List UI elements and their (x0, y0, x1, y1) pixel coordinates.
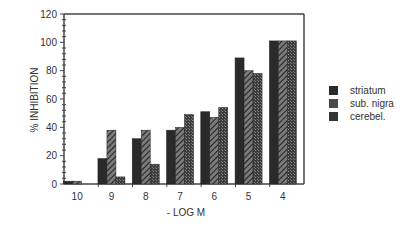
bar-sub-nigra (210, 117, 219, 184)
bar-cerebel (287, 41, 296, 184)
bar-striatum (98, 159, 107, 185)
y-tick-label: 80 (46, 65, 58, 76)
legend: striatum sub. nigra cerebel. (329, 84, 394, 123)
y-tick-label: 60 (46, 94, 58, 105)
y-axis-label: % INHIBITION (29, 67, 40, 132)
bar-striatum (269, 41, 278, 184)
y-tick-label: 0 (51, 179, 57, 190)
legend-swatch-cerebel (329, 112, 338, 121)
bar-striatum (201, 112, 210, 184)
bar-sub-nigra (244, 71, 253, 184)
bar-cerebel (219, 108, 228, 185)
bar-cerebel (150, 164, 159, 184)
legend-item-sub-nigra: sub. nigra (329, 97, 394, 110)
legend-swatch-striatum (329, 86, 338, 95)
bar-sub-nigra (107, 130, 116, 184)
bar-cerebel (185, 115, 194, 184)
bar-sub-nigra (176, 127, 185, 184)
bar-striatum (167, 130, 176, 184)
legend-item-cerebel: cerebel. (329, 110, 394, 123)
legend-item-striatum: striatum (329, 84, 394, 97)
bar-striatum (235, 58, 244, 184)
x-tick-label: 4 (280, 191, 286, 202)
y-tick-label: 40 (46, 122, 58, 133)
legend-label: striatum (350, 85, 386, 96)
legend-label: sub. nigra (350, 98, 394, 109)
y-tick-label: 20 (46, 150, 58, 161)
y-tick-label: 120 (40, 9, 57, 20)
y-tick-label: 100 (40, 37, 57, 48)
x-tick-label: 8 (143, 191, 149, 202)
x-tick-label: 10 (72, 191, 84, 202)
bar-striatum (64, 181, 73, 184)
x-tick-label: 7 (177, 191, 183, 202)
bars (64, 41, 297, 184)
bar-sub-nigra (73, 181, 82, 184)
x-tick-label: 5 (246, 191, 252, 202)
legend-swatch-sub-nigra (329, 99, 338, 108)
bar-cerebel (253, 74, 262, 185)
x-tick-label: 6 (212, 191, 218, 202)
x-tick-label: 9 (109, 191, 115, 202)
bar-cerebel (116, 177, 125, 184)
bar-sub-nigra (278, 41, 287, 184)
bar-striatum (132, 139, 141, 184)
bar-sub-nigra (141, 130, 150, 184)
legend-label: cerebel. (350, 111, 386, 122)
x-axis-label: - LOG M (167, 207, 205, 218)
